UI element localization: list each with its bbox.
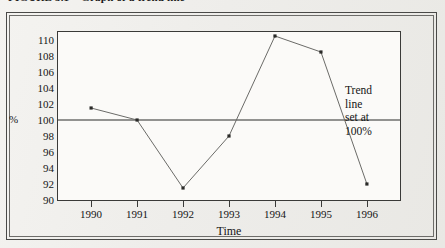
figure-caption: FIGURE 5.1Graph of a trend line	[8, 0, 185, 5]
data-point-marker	[319, 50, 322, 53]
y-axis-tick-label: 94	[43, 162, 54, 174]
data-point-marker	[273, 34, 276, 37]
x-axis-tick-mark	[137, 201, 138, 207]
y-axis-tick-label: 102	[38, 98, 55, 110]
y-axis-tick-label: 96	[43, 146, 54, 158]
x-axis-tick-label: 1993	[218, 208, 240, 220]
y-axis-tick-label: 100	[38, 114, 55, 126]
x-axis-tick-mark	[183, 201, 184, 207]
y-axis-tick-label: 104	[38, 82, 55, 94]
x-axis-title: Time	[57, 224, 401, 239]
x-axis-tick-mark	[321, 201, 322, 207]
y-axis-tick-label: 98	[43, 130, 54, 142]
y-axis-unit-label: %	[9, 113, 18, 125]
data-series-line	[91, 36, 367, 188]
data-point-marker	[90, 106, 93, 109]
data-point-marker	[365, 182, 368, 185]
x-axis-tick-mark	[91, 201, 92, 207]
annotation-line: line	[345, 98, 372, 112]
y-axis-tick-label: 106	[38, 66, 55, 78]
x-axis-tick-label: 1992	[172, 208, 194, 220]
y-axis-tick-label: 90	[43, 194, 54, 206]
figure-caption-text: Graph of a trend line	[81, 0, 185, 3]
trend-line-annotation: Trendlineset at100%	[345, 84, 372, 138]
y-axis-tick-labels: 1101081061041021009896949290	[18, 31, 54, 201]
x-axis-tick-label: 1991	[126, 208, 148, 220]
data-point-marker	[181, 186, 184, 189]
y-axis-tick-label: 92	[43, 178, 54, 190]
x-axis-tick-labels: 1990199119921993199419951996	[57, 208, 401, 224]
figure-caption-number: FIGURE 5.1	[8, 0, 69, 3]
x-axis-tick-label: 1994	[264, 208, 286, 220]
x-axis-tick-label: 1995	[310, 208, 332, 220]
data-point-marker	[135, 118, 138, 121]
x-axis-tick-mark	[229, 201, 230, 207]
x-axis-tick-label: 1990	[80, 208, 102, 220]
x-axis-tick-mark	[275, 201, 276, 207]
annotation-line: Trend	[345, 84, 372, 98]
annotation-line: 100%	[345, 125, 372, 139]
data-point-marker	[227, 134, 230, 137]
y-axis-tick-label: 108	[38, 50, 55, 62]
data-point-markers	[90, 34, 369, 189]
y-axis-tick-label: 110	[38, 34, 54, 46]
x-axis-tick-mark	[367, 201, 368, 207]
x-axis-tick-label: 1996	[356, 208, 378, 220]
annotation-line: set at	[345, 111, 372, 125]
